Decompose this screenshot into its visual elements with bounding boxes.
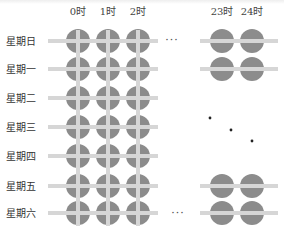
- column-label-23: 23时: [211, 6, 234, 17]
- horizontal-connector-right-0: [200, 39, 278, 43]
- column-label-1: 1时: [100, 6, 116, 17]
- row-label-monday: 星期一: [6, 64, 36, 75]
- diagonal-ellipsis: [209, 117, 254, 143]
- vertical-connector-2: [136, 30, 140, 226]
- vertical-connector-0: [76, 30, 80, 226]
- diagonal-dot-2: [251, 140, 254, 143]
- week-hour-grid-diagram: 0时 1时 2时 23时 24时 星期日 星期一 星期二 星期三 星期四 星期五…: [0, 0, 284, 232]
- horizontal-connector-left-2: [48, 96, 158, 100]
- row-label-wednesday: 星期三: [6, 122, 36, 133]
- horizontal-connector-left-0: [48, 39, 158, 43]
- row-label-saturday: 星期六: [6, 208, 36, 219]
- horizontal-connector-left-6: [48, 211, 158, 215]
- row-label-sunday: 星期日: [6, 36, 36, 47]
- column-label-0: 0时: [70, 6, 86, 17]
- horizontal-connector-left-1: [48, 67, 158, 71]
- ellipsis-top: ···: [165, 34, 179, 47]
- horizontal-connector-right-5: [200, 184, 278, 188]
- row-label-tuesday: 星期二: [6, 93, 36, 104]
- diagonal-dot-1: [230, 129, 233, 132]
- horizontal-connector-left-5: [48, 184, 158, 188]
- column-label-24: 24时: [241, 6, 264, 17]
- diagonal-dot-0: [209, 117, 212, 120]
- horizontal-connector-right-6: [200, 211, 278, 215]
- horizontal-connector-left-4: [48, 154, 158, 158]
- vertical-connector-1: [106, 30, 110, 226]
- row-label-friday: 星期五: [6, 181, 36, 192]
- row-label-thursday: 星期四: [6, 151, 36, 162]
- horizontal-connector-left-3: [48, 125, 158, 129]
- column-label-2: 2时: [130, 6, 146, 17]
- ellipsis-bottom: ···: [171, 207, 185, 220]
- horizontal-connector-right-1: [200, 67, 278, 71]
